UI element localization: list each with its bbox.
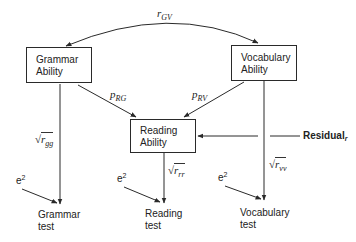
- label-p-rv: pRV: [192, 88, 207, 100]
- correlation-arc: [66, 23, 258, 46]
- error-term-vocabulary: e2: [218, 172, 227, 184]
- node-vocabulary-test: Vocabulary test: [240, 207, 289, 231]
- node-reading-test: Reading test: [145, 208, 182, 232]
- node-reading-ability: Reading Ability: [130, 119, 196, 153]
- error-arrow-reading: [124, 187, 160, 202]
- label-sqrt-r-vv: √rvv: [269, 158, 286, 170]
- node-grammar-test: Grammar test: [38, 209, 80, 233]
- label-residual: Residualr: [303, 130, 347, 142]
- label-sqrt-r-gg: √rgg: [35, 133, 53, 145]
- path-diagram: rGV Grammar Ability Vocabulary Ability R…: [0, 0, 356, 242]
- label-sqrt-r-rr: √rrr: [168, 164, 185, 176]
- error-term-reading: e2: [117, 173, 126, 185]
- node-grammar-ability: Grammar Ability: [26, 47, 92, 83]
- label-p-rg: pRG: [110, 88, 126, 100]
- path-grammar-to-reading: [78, 85, 136, 117]
- node-vocabulary-ability: Vocabulary Ability: [231, 45, 297, 81]
- error-arrow-vocabulary: [225, 186, 261, 199]
- label-r-gv: rGV: [157, 7, 172, 19]
- error-arrow-grammar: [22, 189, 57, 203]
- error-term-grammar: e2: [16, 175, 25, 187]
